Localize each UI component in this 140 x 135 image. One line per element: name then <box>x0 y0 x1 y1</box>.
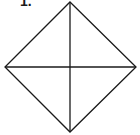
rhombus-diagram <box>0 0 140 135</box>
